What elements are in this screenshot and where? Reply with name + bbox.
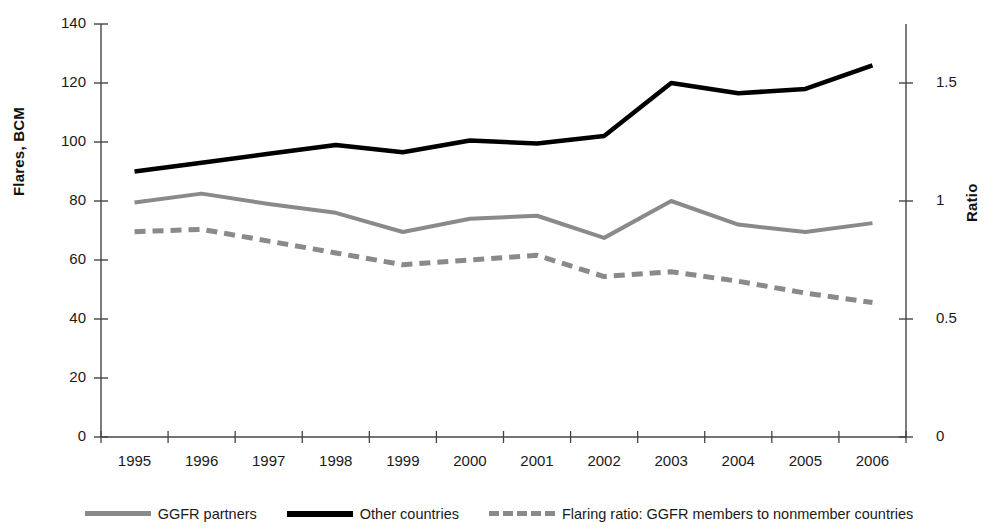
series-lines <box>135 65 873 302</box>
series-line-1 <box>135 65 873 171</box>
legend-item-0[interactable]: GGFR partners <box>85 506 257 522</box>
legend-item-1[interactable]: Other countries <box>287 506 459 522</box>
chart-legend: GGFR partnersOther countriesFlaring rati… <box>0 498 998 529</box>
legend-item-2[interactable]: Flaring ratio: GGFR members to nonmember… <box>489 506 913 522</box>
series-line-0 <box>135 194 873 238</box>
legend-label: GGFR partners <box>158 506 257 522</box>
plot-area <box>0 0 998 529</box>
legend-label: Flaring ratio: GGFR members to nonmember… <box>562 506 913 522</box>
legend-label: Other countries <box>360 506 459 522</box>
legend-swatch-black-icon <box>287 511 353 517</box>
series-line-2 <box>135 229 873 302</box>
legend-swatch-dashed-icon <box>489 511 555 516</box>
legend-swatch-gray-icon <box>85 511 151 516</box>
chart-container: Flares, BCM Ratio 020406080100120140 00.… <box>0 0 998 529</box>
